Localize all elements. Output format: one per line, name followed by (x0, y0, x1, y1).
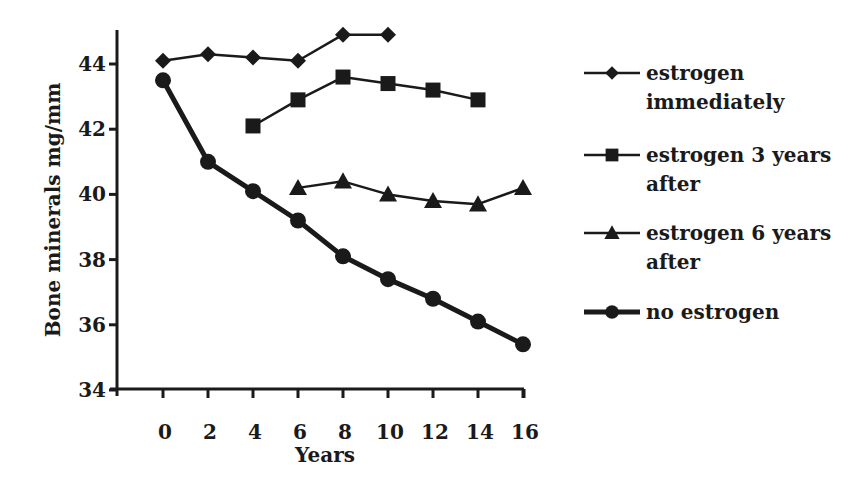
circle-marker (290, 212, 306, 228)
series-line (253, 77, 478, 126)
x-tick-label: 8 (338, 420, 352, 444)
triangle-marker (514, 179, 532, 195)
square-marker (381, 76, 396, 91)
square-marker (246, 118, 261, 133)
square-marker (426, 83, 441, 98)
legend-item: estrogenimmediately (584, 61, 786, 114)
triangle-marker (334, 172, 352, 188)
x-tick-label: 14 (466, 420, 494, 444)
x-tick-label: 2 (203, 420, 217, 444)
series-line (163, 80, 523, 344)
circle-marker (470, 314, 486, 330)
legend-item: no estrogen (584, 300, 780, 324)
circle-marker (380, 271, 396, 287)
square-marker (471, 92, 486, 107)
series-estrogen-6-years-after (289, 172, 532, 211)
y-axis-title: Bone minerals mg/mm (41, 83, 65, 338)
legend-label: after (646, 172, 701, 196)
x-tick-label: 10 (376, 420, 404, 444)
legend-label: estrogen 3 years (646, 143, 831, 167)
series-layer (155, 27, 532, 353)
x-tick-label: 0 (158, 420, 172, 444)
circle-marker (605, 305, 619, 319)
diamond-marker (335, 27, 351, 43)
diamond-marker (200, 46, 216, 62)
legend-item: estrogen 3 yearsafter (584, 143, 831, 196)
x-axis-title: Years (294, 443, 355, 467)
diamond-marker (290, 53, 306, 69)
circle-marker (245, 183, 261, 199)
x-tick-label: 4 (248, 420, 262, 444)
series-no-estrogen (155, 72, 531, 352)
axes: 3436384042440246810121416 (78, 30, 539, 444)
legend-item: estrogen 6 yearsafter (584, 221, 831, 274)
series-line (163, 35, 388, 61)
x-tick-label: 16 (511, 420, 539, 444)
x-tick-label: 6 (293, 420, 307, 444)
y-tick-label: 42 (78, 117, 106, 141)
legend-label: no estrogen (646, 300, 780, 324)
diamond-marker (605, 66, 619, 80)
legend-label: estrogen (646, 61, 745, 85)
diamond-marker (155, 53, 171, 69)
series-estrogen-3-years-after (246, 70, 486, 134)
circle-marker (200, 154, 216, 170)
circle-marker (425, 291, 441, 307)
diamond-marker (245, 49, 261, 65)
legend-label: immediately (646, 90, 786, 114)
circle-marker (155, 72, 171, 88)
diamond-marker (380, 27, 396, 43)
legend: estrogenimmediatelyestrogen 3 yearsafter… (584, 61, 831, 324)
y-tick-label: 44 (78, 52, 106, 76)
square-marker (336, 70, 351, 85)
circle-marker (335, 248, 351, 264)
circle-marker (515, 336, 531, 352)
y-tick-label: 38 (78, 248, 106, 272)
legend-label: after (646, 250, 701, 274)
y-tick-label: 34 (78, 378, 106, 402)
square-marker (606, 149, 619, 162)
y-tick-label: 36 (78, 313, 106, 337)
series-line (298, 181, 523, 204)
x-tick-label: 12 (421, 420, 449, 444)
series-estrogen-immediately (155, 27, 396, 69)
legend-label: estrogen 6 years (646, 221, 831, 245)
y-tick-label: 40 (78, 182, 106, 206)
line-chart: 3436384042440246810121416 estrogenimmedi… (0, 0, 868, 489)
square-marker (291, 92, 306, 107)
